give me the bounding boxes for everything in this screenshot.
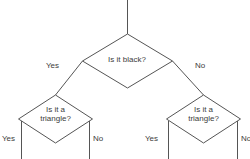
edge-label-root-no: No bbox=[195, 61, 205, 70]
diagram-canvas: Is it black? Is it a triangle? Is it a t… bbox=[0, 0, 250, 159]
root-node-label: Is it black? bbox=[87, 55, 167, 65]
left-node-label-line2: triangle? bbox=[25, 114, 86, 124]
edge-label-left-no: No bbox=[93, 134, 103, 143]
edge-label-root-yes: Yes bbox=[46, 61, 59, 70]
flowchart-graphic bbox=[0, 0, 250, 159]
edge-label-right-yes: Yes bbox=[145, 134, 158, 143]
edge-root-yes bbox=[56, 61, 83, 95]
right-node-label-line2: triangle? bbox=[173, 114, 234, 124]
edge-label-right-no: No bbox=[241, 134, 250, 143]
edge-label-left-yes: Yes bbox=[2, 134, 15, 143]
